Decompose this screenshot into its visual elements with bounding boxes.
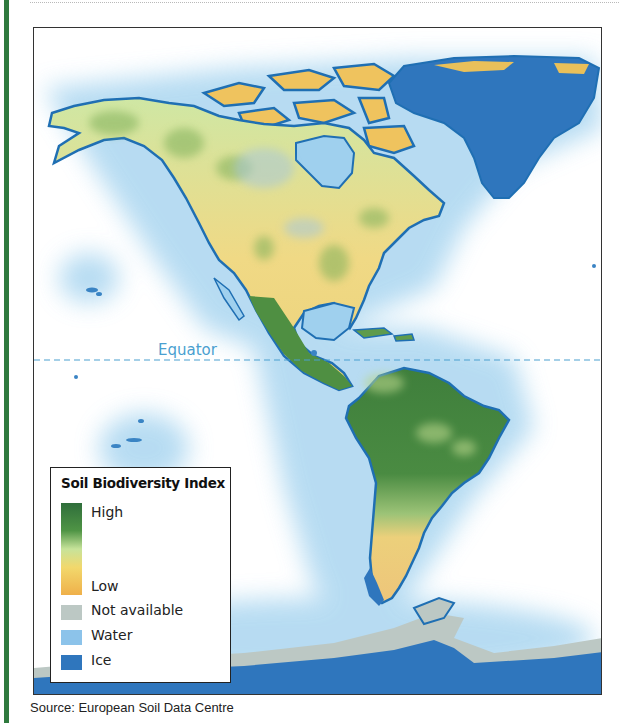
equator-label: Equator <box>158 341 217 359</box>
legend-low-label: Low <box>91 578 119 594</box>
side-accent-bar <box>4 0 9 723</box>
top-divider <box>30 2 619 3</box>
ice-swatch <box>61 655 82 670</box>
water-swatch <box>61 630 82 645</box>
legend-not-available-label: Not available <box>91 602 183 618</box>
biodiversity-gradient-swatch <box>61 503 82 595</box>
source-caption: Source: European Soil Data Centre <box>30 700 234 715</box>
legend-water-label: Water <box>91 627 132 643</box>
legend-high-label: High <box>91 504 123 520</box>
map-frame: Equator Soil Biodiversity Index High Low… <box>33 27 602 695</box>
legend-title: Soil Biodiversity Index <box>61 475 225 491</box>
legend-ice-label: Ice <box>91 652 111 668</box>
legend: Soil Biodiversity Index High Low Not ava… <box>50 467 231 683</box>
not-available-swatch <box>61 605 82 620</box>
